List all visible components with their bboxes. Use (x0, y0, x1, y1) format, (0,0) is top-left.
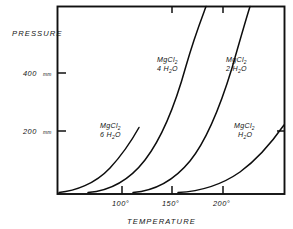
svg-text:2 H2O: 2 H2O (225, 65, 247, 74)
label-6h2o-hyd-end: O (115, 131, 121, 139)
label-2h2o-main: MgCl (226, 56, 244, 64)
svg-text:H2O: H2O (238, 131, 252, 140)
svg-text:6 H2O: 6 H2O (100, 131, 121, 140)
svg-text:4 H2O: 4 H2O (157, 65, 178, 74)
svg-text:200: 200 (22, 127, 37, 136)
series-label-1h2o: MgCl2 H2O (234, 122, 255, 140)
series-label-2h2o: MgCl2 2 H2O (225, 56, 247, 74)
curve-mgcl2-1h2o (178, 125, 284, 193)
label-2h2o-hyd-end: O (241, 65, 247, 73)
vapor-pressure-chart: PRESSURE TEMPERATURE 400 mm 200 mm 100° … (0, 0, 293, 229)
chart-canvas: PRESSURE TEMPERATURE 400 mm 200 mm 100° … (0, 0, 293, 229)
curve-mgcl2-4h2o (88, 7, 206, 193)
svg-text:MgCl2: MgCl2 (100, 122, 121, 131)
label-6h2o-main: MgCl (100, 122, 118, 130)
x-tick-label-100: 100° (112, 199, 129, 208)
svg-text:400: 400 (23, 69, 37, 78)
series-label-4h2o: MgCl2 4 H2O (157, 56, 178, 74)
x-tick-label-200: 200° (212, 199, 230, 208)
label-4h2o-main: MgCl (157, 56, 175, 64)
label-1h2o-hyd-end: O (246, 131, 252, 139)
y-axis-title: PRESSURE (12, 29, 63, 38)
y-tick-label-200: 200 mm (22, 127, 52, 136)
svg-text:MgCl2: MgCl2 (157, 56, 178, 65)
series-label-6h2o: MgCl2 6 H2O (100, 122, 121, 140)
svg-text:MgCl2: MgCl2 (234, 122, 255, 131)
curve-mgcl2-6h2o (59, 128, 139, 193)
svg-text:MgCl2: MgCl2 (226, 56, 247, 65)
svg-text:mm: mm (43, 72, 52, 77)
y-tick-label-400: 400 mm (23, 69, 52, 78)
x-tick-label-150: 150° (162, 199, 179, 208)
label-4h2o-hyd-end: O (172, 65, 178, 73)
label-2h2o-hyd: 2 H (225, 65, 239, 73)
curve-mgcl2-2h2o (133, 7, 250, 193)
label-1h2o-main: MgCl (234, 122, 252, 130)
label-6h2o-hyd: 6 H (100, 131, 113, 139)
svg-text:mm: mm (43, 130, 52, 135)
plot-frame (58, 7, 285, 195)
label-4h2o-hyd: 4 H (157, 65, 170, 73)
x-axis-title: TEMPERATURE (127, 217, 196, 226)
